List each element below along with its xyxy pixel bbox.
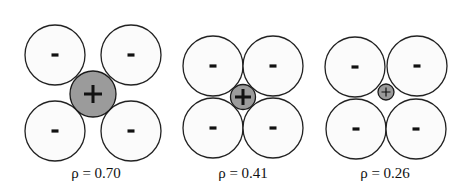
diagram-canvas: ρ = 0.70ρ = 0.41ρ = 0.26 [0,0,459,186]
minus-sign-icon [52,129,59,132]
minus-sign-icon [210,126,217,129]
anion [386,99,446,159]
anion [243,36,303,96]
rho-ratio-label: ρ = 0.26 [360,165,410,181]
minus-sign-icon [352,65,359,68]
panel-rho-3: ρ = 0.26 [325,36,447,181]
cation [378,84,394,100]
anion [101,25,161,85]
minus-sign-icon [353,127,360,130]
anion [326,99,386,159]
rho-ratio-label: ρ = 0.41 [218,165,268,181]
cation [70,71,116,117]
ionic-radius-ratio-diagram: ρ = 0.70ρ = 0.41ρ = 0.26 [0,0,459,186]
anion [25,25,85,85]
minus-sign-icon [128,53,135,56]
minus-sign-icon [414,64,421,67]
panel-rho-2: ρ = 0.41 [183,36,303,181]
anion [183,36,243,96]
minus-sign-icon [128,129,135,132]
minus-sign-icon [270,126,277,129]
rho-ratio-label: ρ = 0.70 [71,165,121,181]
anion [325,37,385,97]
anion [183,98,243,158]
minus-sign-icon [413,127,420,130]
minus-sign-icon [210,64,217,67]
minus-sign-icon [270,64,277,67]
anion [387,36,447,96]
panel-rho-1: ρ = 0.70 [25,25,161,181]
minus-sign-icon [52,53,59,56]
anion [243,98,303,158]
cation [231,85,256,110]
